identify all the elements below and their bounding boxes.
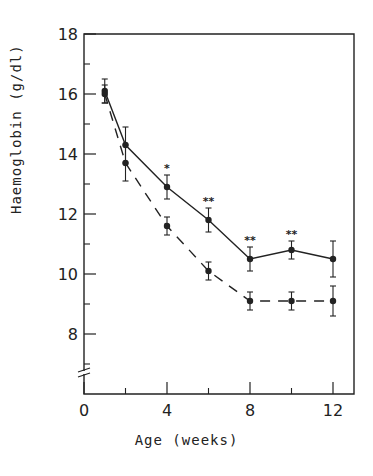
y-tick-label: 14 <box>58 145 78 164</box>
solid-series-line <box>105 91 333 259</box>
plot-frame <box>84 34 354 394</box>
significance-marker: * <box>164 162 170 175</box>
data-point <box>247 256 253 262</box>
data-point <box>164 184 170 190</box>
haemoglobin-chart: 8101214161804812******* <box>0 0 373 476</box>
y-tick-label: 10 <box>58 265 78 284</box>
data-point <box>247 298 253 304</box>
y-axis-label: Haemoglobin (g/dl) <box>8 44 24 214</box>
x-tick-label: 8 <box>245 401 255 420</box>
x-tick-label: 0 <box>79 401 89 420</box>
data-point <box>122 160 128 166</box>
y-tick-label: 18 <box>58 25 78 44</box>
x-tick-label: 12 <box>323 401 343 420</box>
data-point <box>330 298 336 304</box>
data-point <box>102 91 108 97</box>
y-tick-label: 12 <box>58 205 78 224</box>
significance-marker: ** <box>203 195 215 208</box>
data-point <box>330 256 336 262</box>
data-point <box>205 268 211 274</box>
significance-marker: ** <box>286 228 298 241</box>
significance-marker: ** <box>244 234 256 247</box>
data-point <box>205 217 211 223</box>
y-tick-label: 16 <box>58 85 78 104</box>
y-tick-label: 8 <box>68 325 78 344</box>
data-point <box>288 298 294 304</box>
data-point <box>164 223 170 229</box>
dashed-series-line <box>105 94 333 301</box>
axis-break-gap <box>83 371 85 374</box>
x-tick-label: 4 <box>162 401 172 420</box>
x-axis-label: Age (weeks) <box>0 432 373 448</box>
data-point <box>288 247 294 253</box>
